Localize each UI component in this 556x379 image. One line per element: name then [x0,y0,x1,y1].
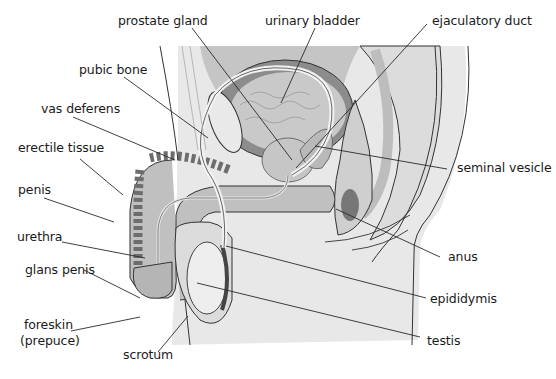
label-prostate-gland: prostate gland [118,13,208,28]
label-epididymis: epididymis [430,291,497,306]
leader-foreskin [71,317,140,331]
anatomy-diagram: prostate gland urinary bladder ejaculato… [0,0,556,379]
label-vas-deferens: vas deferens [41,101,120,116]
label-glans-penis: glans penis [25,262,95,277]
label-urinary-bladder: urinary bladder [265,13,360,28]
testis-body [187,242,227,314]
rectum-content [341,189,359,221]
label-prepuce: (prepuce) [20,333,80,348]
label-ejaculatory-duct: ejaculatory duct [432,13,532,28]
anatomy-illustration [0,0,556,379]
label-penis: penis [18,182,51,197]
label-foreskin: foreskin [24,317,73,332]
glans [133,262,172,298]
label-seminal-vesicle: seminal vesicle [457,160,552,175]
leader-erectile-tissue [80,159,123,195]
front-skin [160,46,178,160]
label-testis: testis [427,333,460,348]
label-erectile-tissue: erectile tissue [18,140,104,155]
leader-penis [44,198,114,222]
label-urethra: urethra [17,229,62,244]
label-anus: anus [448,249,478,264]
label-scrotum: scrotum [123,347,173,362]
label-pubic-bone: pubic bone [79,62,147,77]
